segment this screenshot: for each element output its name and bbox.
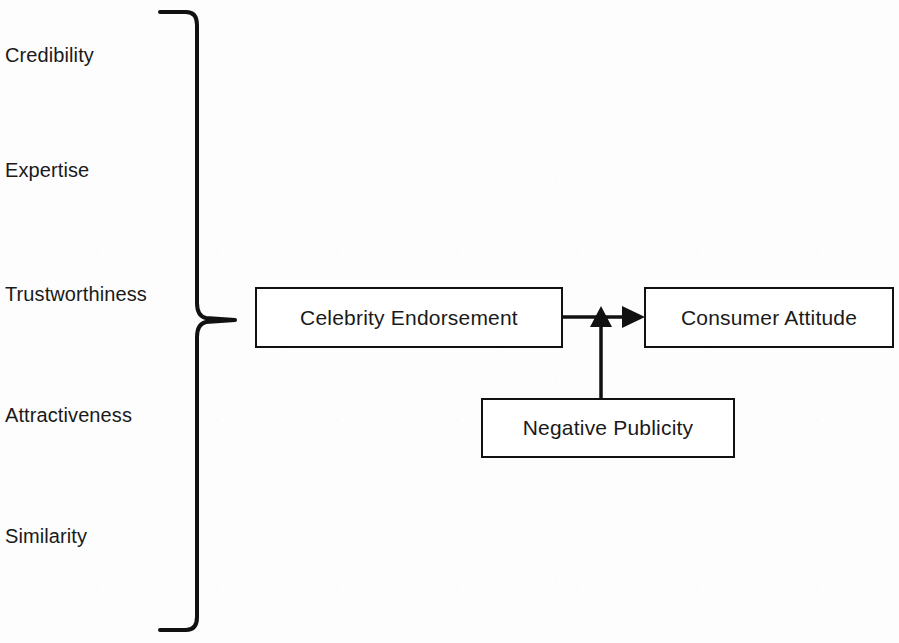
attribute-label-expertise: Expertise [5,160,89,180]
arrow-endorsement-to-attitude [563,306,645,328]
node-celebrity-endorsement[interactable]: Celebrity Endorsement [255,287,563,348]
node-negative-publicity[interactable]: Negative Publicity [481,398,735,458]
attribute-label-attractiveness: Attractiveness [5,405,132,425]
arrow-publicity-to-link [590,306,612,398]
node-consumer-attitude[interactable]: Consumer Attitude [644,287,894,348]
attribute-label-similarity: Similarity [5,526,87,546]
node-label-celebrity-endorsement: Celebrity Endorsement [300,306,518,330]
node-label-consumer-attitude: Consumer Attitude [681,306,857,330]
attribute-label-credibility: Credibility [5,45,94,65]
node-label-negative-publicity: Negative Publicity [523,416,694,440]
attribute-label-trustworthiness: Trustworthiness [5,284,147,304]
diagram-canvas: Credibility Expertise Trustworthiness At… [0,0,899,643]
left-curly-brace [160,12,235,630]
